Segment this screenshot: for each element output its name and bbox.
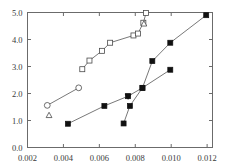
chart-figure: 0.0020.0040.0060.0080.0100.0120.01.02.03…	[0, 0, 232, 168]
data-point-marker	[87, 58, 92, 63]
data-point-marker	[121, 121, 126, 126]
y-tick-label: 1.0	[12, 116, 23, 126]
y-tick-label: 0.0	[12, 143, 23, 153]
series-filled-square-lower	[65, 13, 208, 127]
data-point-marker	[204, 13, 209, 18]
x-tick-label: 0.004	[54, 153, 74, 163]
plot-frame	[28, 13, 213, 148]
y-tick-label: 5.0	[12, 8, 23, 18]
data-point-marker	[102, 103, 107, 108]
series-open-circle-lower-left	[44, 85, 81, 108]
y-tick-label: 3.0	[12, 62, 23, 72]
x-tick-label: 0.008	[126, 153, 145, 163]
data-point-marker	[100, 48, 105, 53]
data-point-marker	[44, 102, 50, 108]
data-point-marker	[46, 112, 52, 117]
data-point-marker	[168, 67, 173, 72]
chart-series-layer	[44, 11, 208, 127]
data-point-marker	[150, 59, 155, 64]
data-point-marker	[140, 85, 145, 90]
data-point-marker	[168, 40, 173, 45]
y-tick-label: 4.0	[12, 35, 23, 45]
series-open-triangle-lower-left	[46, 112, 52, 117]
series-line	[47, 88, 78, 106]
x-tick-label: 0.006	[90, 153, 109, 163]
chart-axes	[28, 13, 213, 148]
x-tick-label: 0.010	[162, 153, 181, 163]
x-tick-label: 0.012	[198, 153, 217, 163]
data-point-marker	[76, 85, 82, 91]
chart-ticks	[28, 13, 213, 148]
series-open-square-upper	[80, 11, 149, 72]
data-point-marker	[127, 103, 132, 108]
chart-canvas: 0.0020.0040.0060.0080.0100.0120.01.02.03…	[0, 0, 232, 168]
data-point-marker	[80, 67, 85, 72]
data-point-marker	[65, 121, 70, 126]
x-tick-label: 0.002	[18, 153, 37, 163]
data-point-marker	[108, 40, 113, 45]
data-point-marker	[135, 31, 140, 36]
data-point-marker	[144, 11, 149, 16]
y-tick-label: 2.0	[12, 89, 23, 99]
